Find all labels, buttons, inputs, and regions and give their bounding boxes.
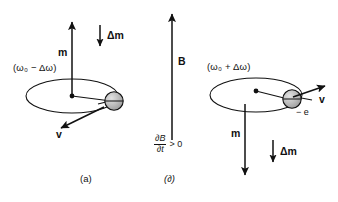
field-rate-expression: ∂B ∂t > 0	[154, 134, 182, 155]
field-rate-denominator: ∂t	[156, 145, 165, 155]
field-rate-fraction: ∂B ∂t	[154, 134, 166, 155]
panel-a-velocity-label: v	[56, 129, 62, 140]
figure-root: (ω₀ − Δω) m Δm v B ∂B ∂t > 0 (ω₀ + Δω) v…	[0, 0, 338, 202]
panel-b-charge-label: − e	[296, 108, 309, 117]
panel-a-delta-moment-label: Δm	[107, 30, 124, 41]
panel-b-moment-label: m	[231, 128, 240, 139]
magnetic-field-label: B	[178, 56, 186, 67]
panel-b-velocity-label: v	[319, 94, 325, 105]
field-rate-comparison: > 0	[169, 139, 182, 149]
field-rate-numerator: ∂B	[154, 134, 166, 144]
panel-a-caption: (a)	[80, 174, 92, 184]
panel-b-graphics	[210, 78, 325, 175]
velocity-arrow-a	[61, 107, 104, 128]
panel-a-omega-label: (ω₀ − Δω)	[13, 63, 57, 73]
panel-b-caption: (∂)	[164, 174, 175, 184]
diagram-vector-layer	[0, 0, 338, 202]
panel-b-delta-moment-label: Δm	[280, 146, 297, 157]
panel-a-moment-label: m	[58, 47, 67, 58]
panel-b-omega-label: (ω₀ + Δω)	[207, 62, 251, 72]
